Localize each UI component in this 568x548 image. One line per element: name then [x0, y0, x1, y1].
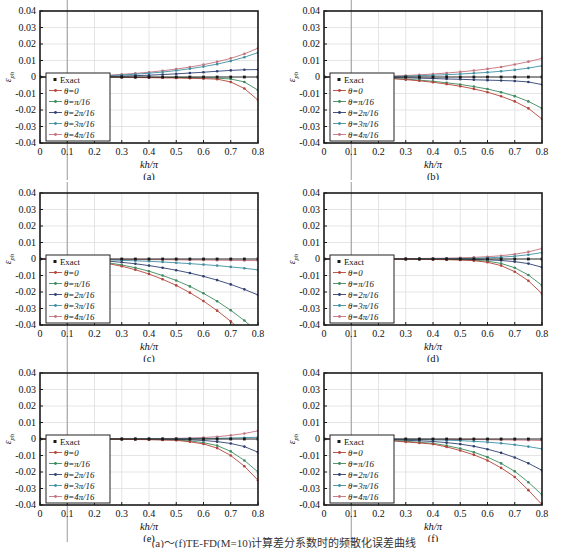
- svg-text:0.7: 0.7: [225, 508, 238, 519]
- svg-text:-0.03: -0.03: [299, 483, 320, 494]
- svg-text:0.1: 0.1: [61, 328, 74, 339]
- svg-text:0.7: 0.7: [509, 508, 522, 519]
- x-axis-label: kh/π: [140, 341, 159, 352]
- svg-text:0: 0: [31, 433, 36, 444]
- x-axis-label: kh/π: [424, 341, 443, 352]
- svg-text:0.5: 0.5: [170, 146, 183, 157]
- svg-text:0.04: 0.04: [19, 5, 37, 16]
- svg-text:θ=π/16: θ=π/16: [348, 97, 375, 107]
- svg-text:0.4: 0.4: [143, 508, 156, 519]
- svg-text:0.4: 0.4: [143, 146, 156, 157]
- svg-text:0.1: 0.1: [345, 508, 358, 519]
- svg-text:0.7: 0.7: [225, 146, 238, 157]
- svg-text:0.01: 0.01: [303, 417, 321, 428]
- svg-text:Exact: Exact: [344, 75, 365, 85]
- subplot-letter: (d): [427, 353, 440, 362]
- svg-text:0: 0: [322, 508, 327, 519]
- svg-text:θ=2π/16: θ=2π/16: [64, 470, 95, 480]
- svg-text:0.6: 0.6: [481, 328, 494, 339]
- svg-text:0.2: 0.2: [88, 508, 101, 519]
- svg-text:0.04: 0.04: [303, 367, 321, 378]
- svg-text:0.2: 0.2: [372, 508, 385, 519]
- svg-text:-0.02: -0.02: [15, 104, 36, 115]
- subplot-b: 00.10.20.30.40.50.60.70.80.040.030.020.0…: [284, 0, 568, 182]
- svg-text:0.5: 0.5: [454, 508, 467, 519]
- svg-text:-0.03: -0.03: [15, 303, 36, 314]
- svg-text:-0.02: -0.02: [15, 286, 36, 297]
- svg-text:0.3: 0.3: [116, 328, 129, 339]
- svg-text:0.6: 0.6: [197, 146, 210, 157]
- svg-text:θ=4π/16: θ=4π/16: [64, 312, 95, 322]
- svg-text:0.3: 0.3: [400, 328, 413, 339]
- svg-text:-0.01: -0.01: [15, 450, 36, 461]
- svg-text:0.04: 0.04: [19, 367, 37, 378]
- y-axis-label: εph: [3, 254, 15, 264]
- svg-text:θ=0: θ=0: [64, 86, 79, 96]
- svg-text:θ=2π/16: θ=2π/16: [348, 470, 379, 480]
- svg-text:0.4: 0.4: [143, 328, 156, 339]
- svg-text:0.01: 0.01: [19, 237, 37, 248]
- y-axis-label: εph: [3, 72, 15, 82]
- legend: Exactθ=0θ=π/16θ=2π/16θ=3π/16θ=4π/16: [46, 255, 110, 323]
- svg-text:-0.03: -0.03: [15, 483, 36, 494]
- svg-text:θ=4π/16: θ=4π/16: [348, 312, 379, 322]
- svg-text:0.01: 0.01: [303, 237, 321, 248]
- svg-text:Exact: Exact: [344, 257, 365, 267]
- x-axis-label: kh/π: [140, 521, 159, 532]
- svg-text:0.8: 0.8: [536, 508, 549, 519]
- subplot-letter: (a): [143, 171, 155, 180]
- x-axis-label: kh/π: [140, 159, 159, 170]
- svg-text:0.03: 0.03: [19, 384, 37, 395]
- svg-text:0.2: 0.2: [372, 146, 385, 157]
- legend: Exactθ=0θ=π/16θ=2π/16θ=3π/16θ=4π/16: [46, 435, 110, 503]
- svg-text:Exact: Exact: [60, 437, 81, 447]
- svg-text:0.6: 0.6: [481, 146, 494, 157]
- dispersion-error-figure: 00.10.20.30.40.50.60.70.80.040.030.020.0…: [0, 0, 568, 548]
- svg-text:0.02: 0.02: [303, 38, 321, 49]
- svg-text:θ=2π/16: θ=2π/16: [348, 108, 379, 118]
- svg-text:θ=2π/16: θ=2π/16: [348, 290, 379, 300]
- svg-text:θ=4π/16: θ=4π/16: [64, 130, 95, 140]
- svg-text:0.03: 0.03: [19, 204, 37, 215]
- chart-canvas-(b): 00.10.20.30.40.50.60.70.80.040.030.020.0…: [284, 0, 568, 180]
- svg-text:0: 0: [31, 253, 36, 264]
- svg-text:θ=4π/16: θ=4π/16: [348, 492, 379, 502]
- svg-text:θ=0: θ=0: [64, 448, 79, 458]
- svg-text:0.5: 0.5: [170, 328, 183, 339]
- svg-text:0.02: 0.02: [19, 38, 37, 49]
- chart-canvas-(e): 00.10.20.30.40.50.60.70.80.040.030.020.0…: [0, 362, 284, 542]
- svg-text:θ=3π/16: θ=3π/16: [64, 481, 95, 491]
- svg-text:0.01: 0.01: [19, 55, 37, 66]
- legend: Exactθ=0θ=π/16θ=2π/16θ=3π/16θ=4π/16: [330, 435, 394, 503]
- x-axis-label: kh/π: [424, 521, 443, 532]
- svg-text:0.04: 0.04: [303, 187, 321, 198]
- svg-text:0.8: 0.8: [536, 146, 549, 157]
- svg-text:0: 0: [38, 328, 43, 339]
- chart-canvas-(c): 00.10.20.30.40.50.60.70.80.040.030.020.0…: [0, 182, 284, 362]
- svg-text:0.1: 0.1: [61, 146, 74, 157]
- svg-text:0.03: 0.03: [303, 204, 321, 215]
- chart-canvas-(f): 00.10.20.30.40.50.60.70.80.040.030.020.0…: [284, 362, 568, 542]
- svg-text:0.3: 0.3: [116, 146, 129, 157]
- subplot-grid: 00.10.20.30.40.50.60.70.80.040.030.020.0…: [0, 0, 568, 538]
- svg-text:θ=π/16: θ=π/16: [64, 279, 91, 289]
- svg-text:θ=4π/16: θ=4π/16: [64, 492, 95, 502]
- svg-text:θ=π/16: θ=π/16: [348, 279, 375, 289]
- svg-text:0: 0: [315, 433, 320, 444]
- svg-text:θ=0: θ=0: [348, 268, 363, 278]
- svg-text:-0.01: -0.01: [299, 270, 320, 281]
- svg-text:-0.04: -0.04: [15, 499, 36, 510]
- svg-text:0: 0: [315, 71, 320, 82]
- svg-text:0.7: 0.7: [509, 146, 522, 157]
- svg-text:-0.02: -0.02: [299, 104, 320, 115]
- subplot-a: 00.10.20.30.40.50.60.70.80.040.030.020.0…: [0, 0, 284, 182]
- svg-text:0.4: 0.4: [427, 508, 440, 519]
- svg-text:0.5: 0.5: [454, 146, 467, 157]
- svg-text:θ=0: θ=0: [348, 86, 363, 96]
- svg-text:-0.02: -0.02: [15, 466, 36, 477]
- svg-text:0: 0: [38, 146, 43, 157]
- svg-text:-0.03: -0.03: [299, 121, 320, 132]
- svg-text:0.5: 0.5: [454, 328, 467, 339]
- subplot-c: 00.10.20.30.40.50.60.70.80.040.030.020.0…: [0, 182, 284, 362]
- svg-text:0.03: 0.03: [19, 22, 37, 33]
